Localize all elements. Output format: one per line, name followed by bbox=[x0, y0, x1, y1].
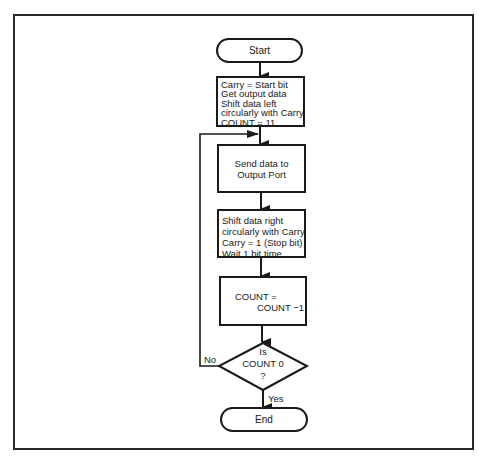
init-line-5: COUNT = 11 bbox=[221, 118, 300, 127]
no-label: No bbox=[204, 354, 216, 365]
send-process-box: Send data to Output Port bbox=[217, 144, 306, 193]
start-terminal: Start bbox=[216, 38, 303, 63]
end-label: End bbox=[255, 414, 273, 425]
decision-text: Is COUNT 0 ? bbox=[219, 346, 307, 382]
send-line-2: Output Port bbox=[237, 169, 286, 180]
decrement-process-box: COUNT = COUNT −1 bbox=[219, 276, 307, 326]
shift-line-4: Wait 1 bit time bbox=[222, 248, 301, 259]
decrement-line-1: COUNT = bbox=[235, 291, 305, 302]
end-terminal: End bbox=[220, 407, 308, 432]
shift-line-2: circularly with Carry bbox=[222, 226, 301, 237]
decrement-line-2: COUNT −1 bbox=[235, 302, 305, 313]
shift-line-3: Carry = 1 (Stop bit) bbox=[222, 237, 301, 248]
decision-line-1: Is bbox=[219, 346, 307, 358]
init-process-box: Carry = Start bit Get output data Shift … bbox=[216, 76, 305, 127]
yes-label: Yes bbox=[268, 393, 284, 404]
start-label: Start bbox=[249, 45, 270, 56]
send-line-1: Send data to bbox=[235, 158, 289, 169]
shift-line-1: Shift data right bbox=[222, 215, 301, 226]
shift-process-box: Shift data right circularly with Carry C… bbox=[217, 209, 306, 258]
decision-line-2: COUNT 0 bbox=[219, 358, 307, 370]
decision-line-3: ? bbox=[219, 370, 307, 382]
